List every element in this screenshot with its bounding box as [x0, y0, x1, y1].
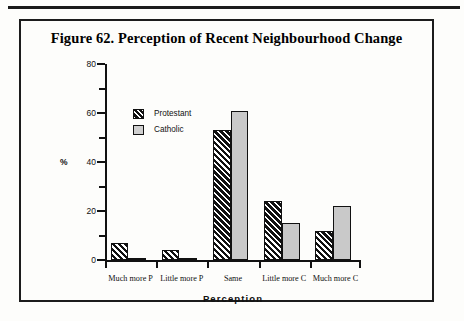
figure-title: Figure 62. Perception of Recent Neighbou…	[21, 30, 432, 47]
y-tick-major	[97, 112, 105, 114]
x-axis-title: Perception	[105, 293, 361, 304]
y-tick-minor	[99, 137, 105, 139]
y-tick-major	[97, 63, 105, 65]
bar-catholic-4	[333, 206, 351, 260]
y-axis	[105, 64, 107, 260]
x-tick	[310, 261, 312, 268]
y-tick-label: 80	[87, 59, 96, 69]
bar-protestant-0	[111, 243, 129, 260]
legend-label-protestant: Protestant	[154, 109, 191, 118]
bar-protestant-1	[162, 250, 180, 260]
page-top-rule	[8, 6, 460, 9]
x-category-label: Little more P	[160, 274, 203, 283]
plot-area: % Perception 020406080 Much more PLittle…	[105, 64, 361, 260]
y-tick-label: 40	[87, 157, 96, 167]
y-tick-label: 20	[87, 206, 96, 216]
x-tick	[105, 261, 107, 268]
bar-catholic-1	[179, 258, 197, 260]
figure-frame: Figure 62. Perception of Recent Neighbou…	[19, 19, 434, 302]
bar-catholic-2	[231, 111, 249, 260]
y-tick-major	[97, 161, 105, 163]
bar-catholic-0	[128, 258, 146, 260]
x-tick	[359, 261, 361, 268]
x-category-label: Much more P	[108, 274, 153, 283]
figure-page: Figure 62. Perception of Recent Neighbou…	[0, 0, 464, 321]
y-tick-major	[97, 210, 105, 212]
chart-legend: Protestant Catholic	[133, 107, 191, 139]
legend-swatch-catholic-icon	[133, 125, 144, 135]
bar-catholic-3	[282, 223, 300, 260]
y-tick-label: 60	[87, 108, 96, 118]
x-tick	[259, 261, 261, 268]
bar-protestant-4	[315, 231, 333, 260]
y-tick-minor	[99, 235, 105, 237]
x-category-label: Little more C	[262, 274, 306, 283]
y-axis-title: %	[60, 157, 68, 167]
y-tick-major	[97, 259, 105, 261]
x-tick	[207, 261, 209, 268]
legend-label-catholic: Catholic	[154, 125, 184, 134]
legend-item-catholic: Catholic	[133, 123, 191, 136]
y-tick-label: 0	[91, 255, 96, 265]
x-category-label: Same	[224, 274, 242, 283]
bar-protestant-3	[264, 201, 282, 260]
legend-item-protestant: Protestant	[133, 107, 191, 120]
x-axis	[105, 260, 361, 262]
y-tick-minor	[99, 88, 105, 90]
x-tick	[156, 261, 158, 268]
bar-protestant-2	[213, 130, 231, 260]
y-tick-minor	[99, 186, 105, 188]
x-category-label: Much more C	[313, 274, 358, 283]
legend-swatch-protestant-icon	[133, 109, 144, 119]
